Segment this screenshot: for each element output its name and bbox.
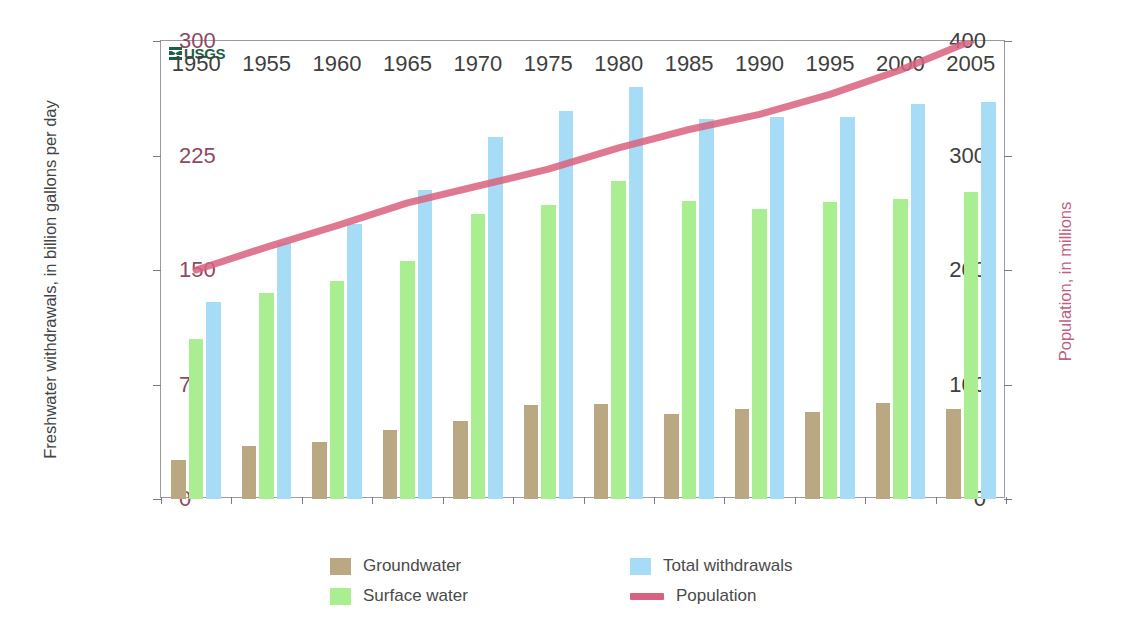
left-tick-mark (153, 270, 161, 271)
bar-group (161, 41, 1006, 499)
chart-figure: Freshwater withdrawals, in billion gallo… (0, 0, 1141, 643)
left-axis-title: Freshwater withdrawals, in billion gallo… (41, 30, 60, 530)
legend-item[interactable]: Groundwater (330, 556, 461, 576)
groundwater-bar (946, 409, 961, 499)
surface-water-bar (964, 192, 979, 499)
legend-color-swatch (330, 558, 351, 575)
left-tick-mark (153, 385, 161, 386)
left-tick-mark (153, 499, 161, 500)
x-tick-mark (1006, 497, 1007, 504)
left-tick-mark (153, 156, 161, 157)
legend-color-swatch (630, 558, 651, 575)
legend-label: Population (676, 586, 756, 606)
legend-label: Total withdrawals (663, 556, 792, 576)
total-withdrawals-bar (981, 102, 996, 499)
legend-label: Surface water (363, 586, 468, 606)
left-tick-mark (153, 41, 161, 42)
legend-item[interactable]: Population (630, 586, 756, 606)
legend-label: Groundwater (363, 556, 461, 576)
legend-color-swatch (330, 588, 351, 605)
top-clipped-text (0, 0, 1141, 3)
legend-line-swatch (630, 593, 664, 600)
chart-legend: GroundwaterSurface waterTotal withdrawal… (330, 556, 890, 618)
legend-item[interactable]: Total withdrawals (630, 556, 792, 576)
plot-area: USGS 0100200300400 075150225300 19501955… (160, 40, 1005, 498)
right-axis-title: Population, in millions (1056, 72, 1075, 492)
legend-item[interactable]: Surface water (330, 586, 468, 606)
